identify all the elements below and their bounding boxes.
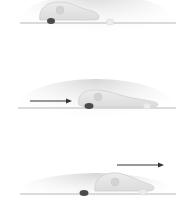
nucleus (56, 6, 64, 14)
stage-1-panel (0, 0, 183, 72)
stage-3-illustration (0, 144, 183, 217)
front-adhesion (139, 189, 147, 195)
stage-3-panel (0, 144, 183, 217)
detached-rear-fragment (80, 190, 89, 196)
nucleus (111, 178, 119, 186)
nucleus (94, 93, 102, 101)
substrate-shadow (16, 79, 176, 139)
front-adhesion (143, 103, 151, 109)
stage-2-illustration (0, 72, 183, 144)
motion-arrow-head-icon (158, 163, 164, 168)
front-adhesion (106, 19, 114, 25)
substrate-shadow (16, 173, 176, 217)
substrate-shadow (16, 0, 176, 54)
rear-adhesion (85, 103, 94, 109)
rear-adhesion (47, 18, 55, 24)
stage-2-panel (0, 72, 183, 144)
stage-1-illustration (0, 0, 183, 72)
